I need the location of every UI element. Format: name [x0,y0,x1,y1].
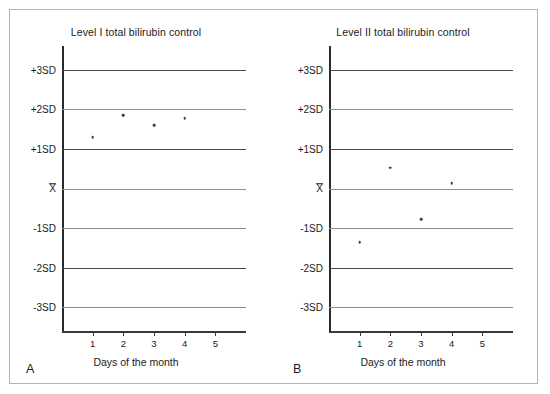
data-point-b-day4 [450,182,453,185]
y-tick-label-a-3: X [49,183,56,195]
y-tick-label-a-2: +1SD [31,143,56,154]
x-tick-label-b-3: 3 [418,338,423,349]
x-tick-label-b-1: 1 [357,338,362,349]
y-tick-label-a-1: +2SD [31,104,56,115]
x-tick-label-a-3: 3 [151,338,156,349]
y-tick-label-b-2: +1SD [298,143,323,154]
chart-title-a: Level I total bilirubin control [10,26,262,38]
x-tick-b-4 [452,331,453,336]
y-tick-label-a-5: -2SD [33,262,56,273]
data-point-a-day2 [122,114,125,117]
gridline-a-1 [62,109,246,110]
data-point-a-day4 [183,117,186,120]
x-tick-a-2 [123,331,124,336]
y-tick-label-b-1: +2SD [298,104,323,115]
x-axis-title-b: Days of the month [277,356,529,368]
mean-symbol-a: X [49,183,56,195]
gridline-a-4 [62,228,246,229]
data-point-a-day1 [91,136,94,139]
gridline-b-1 [329,109,513,110]
y-tick-label-b-6: -3SD [300,302,323,313]
x-axis-title-a: Days of the month [10,356,262,368]
gridline-a-3 [62,189,246,190]
chart-panel-a: Level I total bilirubin control +3SD+2SD… [10,0,277,394]
gridline-a-0 [62,70,246,71]
y-tick-label-a-4: -1SD [33,223,56,234]
y-tick-label-a-6: -3SD [33,302,56,313]
x-tick-a-4 [185,331,186,336]
y-tick-label-b-0: +3SD [298,64,323,75]
x-tick-a-5 [215,331,216,336]
x-tick-b-1 [360,331,361,336]
gridline-b-2 [329,149,513,150]
x-tick-label-a-1: 1 [90,338,95,349]
gridline-b-0 [329,70,513,71]
x-tick-label-b-5: 5 [480,338,485,349]
chart-panel-b: Level II total bilirubin control +3SD+2S… [277,0,544,394]
x-tick-a-3 [154,331,155,336]
gridline-b-5 [329,268,513,269]
x-tick-label-a-2: 2 [121,338,126,349]
data-point-a-day3 [153,124,156,127]
y-tick-label-b-3: X [316,183,323,195]
chart-title-b: Level II total bilirubin control [277,26,529,38]
x-tick-a-1 [93,331,94,336]
x-tick-label-a-4: 4 [182,338,187,349]
figure-root: Level I total bilirubin control +3SD+2SD… [0,0,550,394]
y-tick-label-b-5: -2SD [300,262,323,273]
x-tick-label-b-4: 4 [449,338,454,349]
x-tick-b-5 [482,331,483,336]
data-point-b-day2 [389,166,392,169]
mean-symbol-b: X [316,183,323,195]
y-tick-label-b-4: -1SD [300,223,323,234]
y-tick-label-a-0: +3SD [31,64,56,75]
gridline-a-5 [62,268,246,269]
x-tick-label-a-5: 5 [213,338,218,349]
data-point-b-day1 [358,241,361,244]
panel-letter-a: A [26,362,34,376]
gridline-b-3 [329,189,513,190]
data-point-b-day3 [420,218,423,221]
panel-letter-b: B [293,362,301,376]
x-tick-b-3 [421,331,422,336]
gridline-a-2 [62,149,246,150]
gridline-b-4 [329,228,513,229]
gridline-a-6 [62,307,246,308]
x-tick-b-2 [390,331,391,336]
gridline-b-6 [329,307,513,308]
plot-area-a: +3SD+2SD+1SDX-1SD-2SD-3SD12345 [62,46,246,331]
plot-area-b: +3SD+2SD+1SDX-1SD-2SD-3SD12345 [329,46,513,331]
x-tick-label-b-2: 2 [388,338,393,349]
